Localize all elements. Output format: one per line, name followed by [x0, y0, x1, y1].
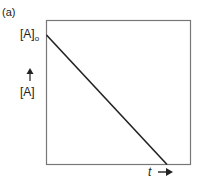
y-intercept-label: [A]o [20, 27, 39, 43]
up-arrow-icon [26, 68, 34, 82]
y0-main: [A] [20, 27, 35, 41]
data-line [47, 35, 168, 165]
panel-label: (a) [2, 6, 15, 18]
y-axis-label: [A] [20, 85, 35, 99]
plot-frame [47, 21, 191, 165]
y0-subscript: o [35, 34, 39, 43]
right-arrow-icon [158, 167, 174, 177]
x-axis-label: t [148, 165, 151, 179]
